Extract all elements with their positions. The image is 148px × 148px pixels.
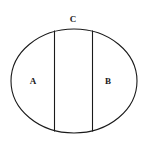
- region-label-b: B: [105, 77, 111, 86]
- region-label-a: A: [30, 77, 37, 86]
- geometry-figure: A B C: [0, 0, 148, 148]
- region-label-c: C: [70, 15, 77, 24]
